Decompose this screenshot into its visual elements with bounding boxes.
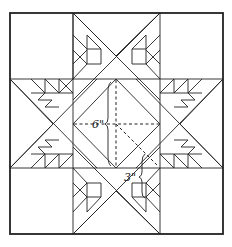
point-dimension-label: 3" [124, 171, 136, 184]
outer-border [10, 13, 223, 234]
grid-lines [10, 13, 223, 234]
brace-3in [139, 154, 145, 198]
star-outline [10, 13, 223, 234]
quilt-block-diagram: 6" 3" [0, 0, 232, 247]
sawtooth-triangles [31, 35, 202, 212]
dashed-guides [74, 80, 159, 167]
center-dimension-label: 6" [92, 118, 104, 131]
